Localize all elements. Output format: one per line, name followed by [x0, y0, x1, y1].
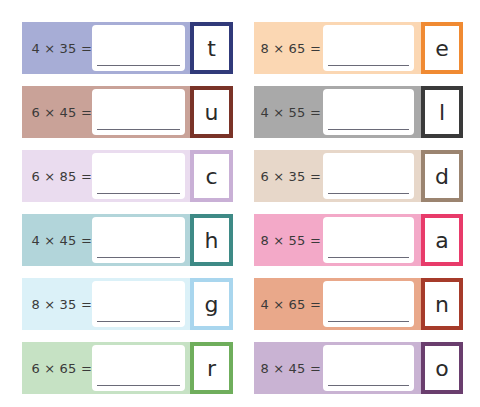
letter-box: a [421, 214, 463, 266]
answer-field[interactable] [92, 89, 185, 135]
problem-card: 4 × 55 = l [254, 86, 465, 138]
problem-card: 6 × 65 = r [22, 342, 233, 394]
letter-box: c [190, 150, 233, 202]
answer-underline [328, 65, 409, 66]
problem-card: 4 × 35 = t [22, 22, 233, 74]
letter-box: d [421, 150, 463, 202]
answer-underline [328, 385, 409, 386]
problem-text: 8 × 45 = [254, 342, 321, 394]
answer-underline [328, 193, 409, 194]
letter-box: o [421, 342, 463, 394]
problem-card: 6 × 85 = c [22, 150, 233, 202]
problem-card: 6 × 35 = d [254, 150, 465, 202]
letter-box: t [190, 22, 233, 74]
letter-box: u [190, 86, 233, 138]
problem-card: 4 × 45 = h [22, 214, 233, 266]
problem-text: 4 × 35 = [22, 22, 92, 74]
answer-field[interactable] [323, 25, 414, 71]
problem-text: 4 × 65 = [254, 278, 321, 330]
problem-card: 8 × 55 = a [254, 214, 465, 266]
answer-field[interactable] [323, 217, 414, 263]
answer-underline [328, 321, 409, 322]
answer-underline [97, 321, 180, 322]
problem-text: 8 × 65 = [254, 22, 321, 74]
answer-field[interactable] [323, 281, 414, 327]
answer-underline [97, 385, 180, 386]
answer-field[interactable] [323, 89, 414, 135]
problem-text: 6 × 85 = [22, 150, 92, 202]
problem-card: 8 × 35 = g [22, 278, 233, 330]
answer-underline [97, 257, 180, 258]
answer-field[interactable] [92, 153, 185, 199]
letter-box: r [190, 342, 233, 394]
answer-field[interactable] [323, 345, 414, 391]
answer-underline [97, 65, 180, 66]
letter-box: e [421, 22, 463, 74]
problem-card: 4 × 65 = n [254, 278, 465, 330]
answer-field[interactable] [323, 153, 414, 199]
letter-box: h [190, 214, 233, 266]
answer-field[interactable] [92, 25, 185, 71]
answer-field[interactable] [92, 217, 185, 263]
answer-underline [97, 129, 180, 130]
problem-text: 6 × 65 = [22, 342, 92, 394]
answer-underline [328, 129, 409, 130]
problem-card: 8 × 45 = o [254, 342, 465, 394]
answer-field[interactable] [92, 281, 185, 327]
letter-box: g [190, 278, 233, 330]
problem-text: 6 × 45 = [22, 86, 92, 138]
letter-box: n [421, 278, 463, 330]
problem-card: 8 × 65 = e [254, 22, 465, 74]
problem-text: 4 × 45 = [22, 214, 92, 266]
problem-card: 6 × 45 = u [22, 86, 233, 138]
problem-text: 8 × 35 = [22, 278, 92, 330]
answer-field[interactable] [92, 345, 185, 391]
answer-underline [97, 193, 180, 194]
problem-text: 4 × 55 = [254, 86, 321, 138]
problem-text: 8 × 55 = [254, 214, 321, 266]
problem-text: 6 × 35 = [254, 150, 321, 202]
answer-underline [328, 257, 409, 258]
letter-box: l [421, 86, 463, 138]
